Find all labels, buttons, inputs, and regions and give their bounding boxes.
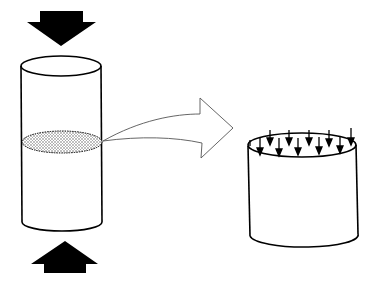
cross-section	[22, 131, 102, 153]
down-arrow-icon	[27, 11, 96, 46]
diagram-canvas	[0, 0, 378, 285]
curved-right-arrow-icon	[103, 98, 233, 158]
up-arrow-icon	[31, 241, 98, 273]
